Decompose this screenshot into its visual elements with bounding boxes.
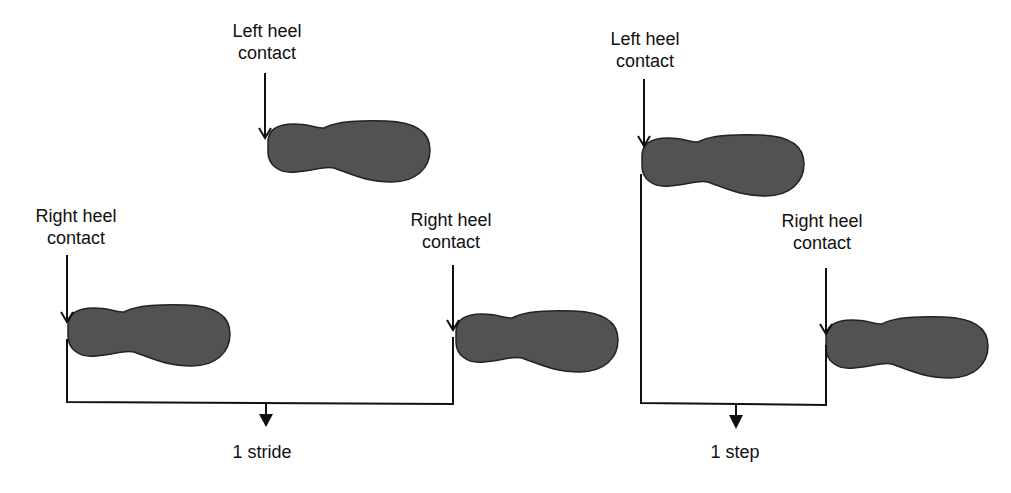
- label-right-heel-contact-3: Right heel contact: [781, 210, 862, 254]
- label-line: contact: [781, 232, 862, 254]
- label-line: Right heel: [410, 209, 491, 231]
- right-footprint-2: [456, 311, 618, 372]
- label-line: Right heel: [781, 210, 862, 232]
- step-arrowhead-icon: [729, 415, 743, 429]
- arrow-left-heel-2: [638, 79, 650, 146]
- left-footprint-1: [268, 121, 430, 182]
- step-bracket: [641, 174, 826, 405]
- step-label: 1 step: [710, 441, 759, 463]
- arrow-right-heel-1: [61, 255, 73, 322]
- label-line: contact: [410, 231, 491, 253]
- label-right-heel-contact-1: Right heel contact: [35, 205, 116, 249]
- right-footprint-3: [826, 317, 988, 378]
- label-line: contact: [610, 50, 679, 72]
- label-line: contact: [35, 227, 116, 249]
- arrow-left-heel-1: [259, 73, 271, 138]
- label-line: Left heel: [232, 20, 301, 42]
- stride-label: 1 stride: [232, 441, 291, 463]
- label-left-heel-contact-2: Left heel contact: [610, 28, 679, 72]
- label-line: contact: [232, 42, 301, 64]
- right-footprint-1: [68, 305, 230, 366]
- label-line: Left heel: [610, 28, 679, 50]
- label-left-heel-contact-1: Left heel contact: [232, 20, 301, 64]
- label-right-heel-contact-2: Right heel contact: [410, 209, 491, 253]
- label-line: Right heel: [35, 205, 116, 227]
- left-footprint-2: [642, 135, 804, 196]
- arrow-right-heel-3: [820, 268, 832, 334]
- stride-arrowhead-icon: [259, 414, 273, 427]
- arrow-right-heel-2: [447, 265, 459, 330]
